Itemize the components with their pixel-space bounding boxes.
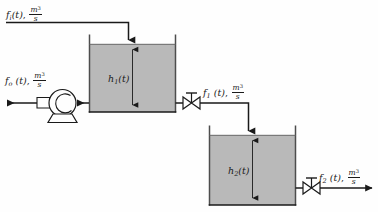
inlet-pipe-line xyxy=(6,23,129,41)
tank1-outlet-unit-exponent: 3 xyxy=(240,83,243,89)
tank-1 xyxy=(89,35,177,113)
tank2-outlet-unit-exponent: 3 xyxy=(356,168,359,174)
tank2-outlet-flow-arg: (t) xyxy=(330,172,341,183)
pump-outlet-flow-unit: m3 s xyxy=(33,72,45,89)
tank-2 xyxy=(209,126,297,206)
tank1-outlet-unit-denominator: s xyxy=(232,93,244,101)
tank-2-level-arg: (t) xyxy=(238,165,249,176)
tank1-outlet-flow-subscript: 1 xyxy=(207,92,211,100)
pump-outlet-flow-subscript: o xyxy=(9,80,13,88)
inlet-unit-exponent: 3 xyxy=(38,5,41,11)
tank1-outlet-flow-separator: , xyxy=(225,87,228,98)
tank2-outlet-flow-separator: , xyxy=(341,172,344,183)
inlet-pipe xyxy=(6,23,129,41)
inlet-unit-numerator: m xyxy=(30,5,37,14)
pump-outlet-flow-separator: , xyxy=(27,75,30,86)
valve-1-right-body xyxy=(192,97,201,109)
pump-outlet-unit-exponent: 3 xyxy=(41,71,44,77)
tank2-outlet-flow-unit: m3 s xyxy=(348,169,360,186)
pump xyxy=(37,90,89,123)
tank-2-level-label: h2(t) xyxy=(228,165,250,178)
tank1-outlet-flow-label: f1 (t), m3 s xyxy=(203,84,244,101)
tank2-outlet-flow-label: f2 (t), m3 s xyxy=(319,169,360,186)
valve-1-outlet-line xyxy=(200,103,249,131)
pump-discharge-nozzle xyxy=(37,98,50,109)
pump-outlet-flow-arg: (t) xyxy=(15,75,26,86)
tank1-outlet-flow-unit: m3 s xyxy=(232,84,244,101)
tank-1-level-arg: (t) xyxy=(118,73,129,84)
process-diagram: fi(t), m3 s fo (t), m3 s f1 (t), m3 s f2… xyxy=(0,0,378,212)
tank2-outlet-unit-numerator: m xyxy=(349,168,356,177)
valve-2 xyxy=(303,178,320,194)
tank2-outlet-unit-denominator: s xyxy=(348,178,360,186)
pump-outlet-unit-denominator: s xyxy=(33,81,45,89)
inlet-flow-unit: m3 s xyxy=(29,6,41,23)
tank2-outlet-flow-subscript: 2 xyxy=(323,177,327,185)
valve-1 xyxy=(183,93,200,109)
inlet-flow-separator: , xyxy=(23,9,26,20)
tank1-outlet-flow-arg: (t) xyxy=(214,87,225,98)
tank1-outlet-unit-numerator: m xyxy=(233,83,240,92)
inlet-flow-arg: (t) xyxy=(12,9,23,20)
tank-1-level-label: h1(t) xyxy=(108,73,130,86)
inlet-flow-label: fi(t), m3 s xyxy=(6,6,42,23)
pump-outlet-flow-label: fo (t), m3 s xyxy=(5,72,46,89)
valve-2-left-body xyxy=(303,182,312,194)
pump-base xyxy=(48,114,77,123)
valve-1-left-body xyxy=(183,97,192,109)
inlet-unit-denominator: s xyxy=(29,15,41,23)
